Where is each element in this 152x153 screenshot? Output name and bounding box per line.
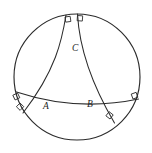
right-angle-mark-right <box>131 92 138 99</box>
right-angle-mark-top-left <box>65 16 71 22</box>
boundary-circle <box>14 14 140 140</box>
arc-side-AB <box>17 92 139 104</box>
vertex-label-B: B <box>87 99 93 109</box>
figure-container: A B C <box>0 0 152 153</box>
arc-side-AC <box>23 15 66 113</box>
right-angle-mark-left-upper <box>13 93 20 100</box>
arc-side-BC <box>78 14 115 123</box>
geometry-figure: A B C <box>0 0 152 153</box>
vertex-label-A: A <box>42 101 49 111</box>
vertex-label-C: C <box>72 43 79 53</box>
